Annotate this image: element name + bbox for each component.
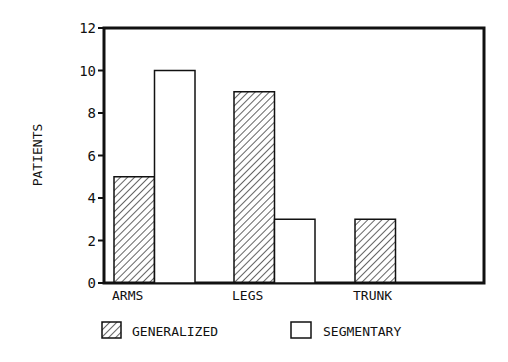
bar-legs-segmentary [275,219,316,283]
x-axis-labels: ARMSLEGSTRUNK [112,288,392,303]
x-tick-label-trunk: TRUNK [353,288,392,303]
y-tick-label: 8 [88,105,96,121]
open-swatch-icon [291,322,311,338]
y-axis-ticks: 024681012 [79,20,104,291]
bar-trunk-generalized [355,219,396,283]
y-tick-label: 6 [88,148,96,164]
x-tick-label-legs: LEGS [232,288,263,303]
y-tick-label: 10 [79,63,96,79]
y-axis-label: PATIENTS [30,124,45,187]
legend-item-segmentary: SEGMENTARY [291,322,401,339]
legend-item-generalized: GENERALIZED [102,322,218,339]
bar-arms-generalized [114,177,155,283]
y-tick-label: 12 [79,20,96,36]
legend-label-segmentary: SEGMENTARY [323,324,401,339]
bar-legs-generalized [234,92,275,283]
hatched-swatch-icon [102,322,121,338]
legend-label-generalized: GENERALIZED [132,324,218,339]
bar-arms-segmentary [155,71,196,284]
x-tick-label-arms: ARMS [112,288,143,303]
y-tick-label: 4 [88,190,96,206]
legend: GENERALIZED SEGMENTARY [102,322,401,339]
bars [114,71,396,284]
y-tick-label: 0 [88,275,96,291]
y-tick-label: 2 [88,233,96,249]
bar-chart: PATIENTS 024681012 ARMSLEGSTRUNK GENERAL… [0,0,508,362]
